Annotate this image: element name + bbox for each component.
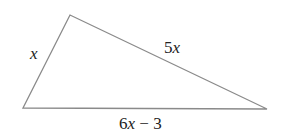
- label-top-side: 5x: [164, 38, 181, 57]
- triangle-diagram: x 5x 6x − 3: [0, 0, 284, 138]
- label-left-side: x: [29, 44, 38, 63]
- triangle-canvas: x 5x 6x − 3: [0, 0, 284, 138]
- label-bottom-side: 6x − 3: [119, 114, 162, 133]
- triangle-shape: [23, 15, 267, 109]
